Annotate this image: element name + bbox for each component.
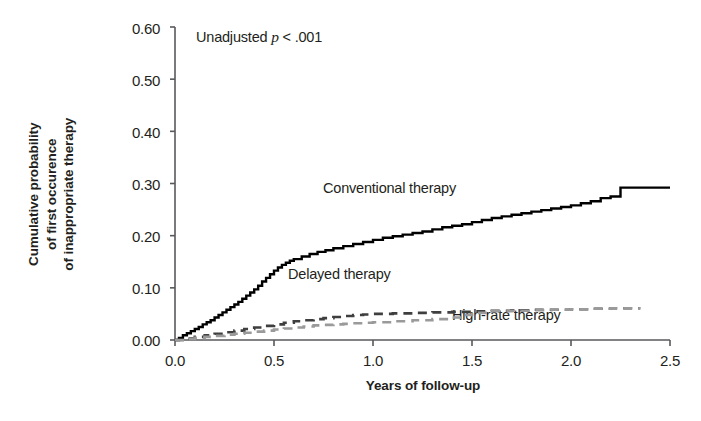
series-path-conventional-therapy xyxy=(175,188,670,340)
series-label-delayed: Delayed therapy xyxy=(288,266,391,282)
p-value-symbol: p xyxy=(271,28,279,45)
series-path-delayed-therapy xyxy=(175,308,640,340)
x-tick-label-0: 0.0 xyxy=(148,352,202,369)
y-axis-title-line-2: of first occurence xyxy=(42,39,60,349)
p-value-suffix: < .001 xyxy=(279,29,322,45)
y-tick-label-0: 0.60 xyxy=(106,20,160,37)
x-tick-label-1: 0.5 xyxy=(247,352,301,369)
y-tick-label-5: 0.10 xyxy=(106,280,160,297)
series-label-conventional: Conventional therapy xyxy=(323,180,456,196)
x-tick-label-4: 2.0 xyxy=(544,352,598,369)
p-value-prefix: Unadjusted xyxy=(196,29,271,45)
x-axis-title: Years of follow-up xyxy=(175,378,671,393)
p-value-annotation: Unadjusted p < .001 xyxy=(196,28,322,46)
series-lines xyxy=(175,188,670,340)
series-path-high-rate-therapy xyxy=(175,308,640,340)
y-tick-label-6: 0.00 xyxy=(106,332,160,349)
y-axis-title: Cumulative probability of first occurenc… xyxy=(25,39,78,349)
y-tick-label-4: 0.20 xyxy=(106,228,160,245)
y-tick-label-3: 0.30 xyxy=(106,176,160,193)
x-tick-label-2: 1.0 xyxy=(346,352,400,369)
y-tick-label-2: 0.40 xyxy=(106,124,160,141)
kaplan-meier-chart: Cumulative probability of first occurenc… xyxy=(0,0,701,421)
x-tick-label-5: 2.5 xyxy=(643,352,697,369)
y-axis-title-line-3: of inappropriate therapy xyxy=(60,39,78,349)
y-axis-title-line-1: Cumulative probability xyxy=(25,39,43,349)
x-tick-label-3: 1.5 xyxy=(445,352,499,369)
y-tick-label-1: 0.50 xyxy=(106,72,160,89)
series-label-highrate: High-rate therapy xyxy=(452,307,561,323)
